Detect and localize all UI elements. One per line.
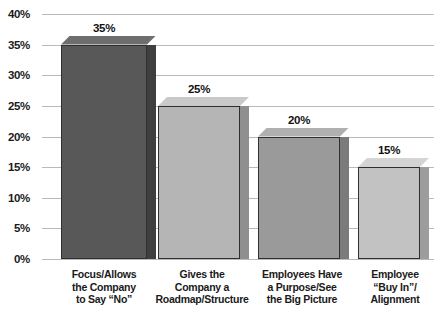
bar-1-top-face bbox=[158, 97, 240, 106]
bar-value-label-2: 20% bbox=[258, 114, 340, 126]
y-axis-tick-10: 10% bbox=[0, 192, 30, 204]
bar-2-side-face bbox=[340, 137, 349, 260]
bar-3-side-fill bbox=[420, 167, 429, 259]
x-axis-label-3: Employee “Buy In”/ Alignment bbox=[348, 268, 442, 306]
y-axis-tick-5: 5% bbox=[0, 222, 30, 234]
y-axis-tick-25: 25% bbox=[0, 100, 30, 112]
y-axis-tick-15: 15% bbox=[0, 161, 30, 173]
plot-area: 40% 35% 30% 25% 20% 15% 10% 5% 0% bbox=[42, 14, 434, 259]
y-axis-tick-35: 35% bbox=[0, 39, 30, 51]
bar-0-side-fill bbox=[147, 45, 156, 259]
bar-value-label-0: 35% bbox=[61, 22, 147, 34]
bar-1-side-face bbox=[240, 106, 249, 259]
bar-0-top-face bbox=[61, 36, 147, 45]
bar-3-side-face bbox=[420, 167, 429, 259]
bar-3-top-face bbox=[358, 158, 420, 167]
bar-3-front-face bbox=[358, 167, 420, 259]
gridline-0 bbox=[42, 259, 434, 260]
bar-0-side-face bbox=[147, 45, 156, 259]
y-axis-tick-0: 0% bbox=[0, 253, 30, 265]
bar-chart: 40% 35% 30% 25% 20% 15% 10% 5% 0% bbox=[0, 0, 442, 324]
y-axis-tick-30: 30% bbox=[0, 69, 30, 81]
bar-2-top-face bbox=[258, 128, 340, 137]
bar-1-top-fill bbox=[158, 97, 249, 106]
y-axis-tick-40: 40% bbox=[0, 8, 30, 20]
bar-3-top-fill bbox=[358, 158, 429, 167]
gridline-40 bbox=[42, 14, 434, 15]
bar-2-front-face bbox=[258, 137, 340, 260]
y-axis-tick-20: 20% bbox=[0, 131, 30, 143]
x-axis-label-3-line-0: Employee bbox=[348, 268, 442, 281]
bar-2-side-fill bbox=[340, 137, 349, 260]
x-axis-label-3-line-2: Alignment bbox=[348, 293, 442, 306]
bar-2-top-fill bbox=[258, 128, 349, 137]
bar-1-side-fill bbox=[240, 106, 249, 259]
bar-value-label-1: 25% bbox=[158, 83, 240, 95]
bar-1-front-face bbox=[158, 106, 240, 259]
bar-0-top-fill bbox=[61, 36, 156, 45]
x-axis-label-3-line-1: “Buy In”/ bbox=[348, 281, 442, 294]
bar-0-front-face bbox=[61, 45, 147, 259]
bar-value-label-3: 15% bbox=[358, 144, 420, 156]
